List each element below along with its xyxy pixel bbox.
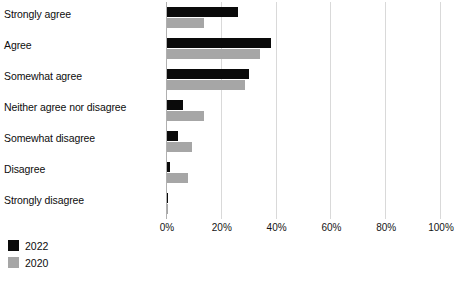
- tick-label-100: 100%: [428, 222, 454, 234]
- tick-label-80: 80%: [376, 222, 396, 234]
- bar-2020-somewhat-agree: [167, 80, 245, 90]
- bar-2020-somewhat-disagree: [167, 142, 192, 152]
- category-label-strongly-disagree: Strongly disagree: [4, 194, 154, 206]
- gridline-80: [385, 2, 386, 219]
- legend-item-2022: 2022: [8, 238, 128, 253]
- bar-2020-agree: [167, 49, 260, 59]
- category-label-disagree: Disagree: [4, 163, 154, 175]
- plot-area: [166, 2, 440, 219]
- bar-2020-strongly-disagree: [167, 204, 168, 214]
- category-label-neither-agree-nor-disagree: Neither agree nor disagree: [4, 101, 154, 113]
- legend-swatch-icon-2020: [8, 257, 19, 268]
- bar-2022-strongly-agree: [167, 7, 238, 17]
- legend-item-2020: 2020: [8, 255, 128, 270]
- bar-2020-disagree: [167, 173, 188, 183]
- gridline-100: [440, 2, 441, 219]
- tick-label-60: 60%: [321, 222, 341, 234]
- value-axis-tick-labels: 0% 20% 40% 60% 80% 100%: [166, 222, 446, 238]
- bar-2022-disagree: [167, 162, 170, 172]
- category-label-agree: Agree: [4, 39, 154, 51]
- tick-label-0: 0%: [160, 222, 174, 234]
- category-label-somewhat-disagree: Somewhat disagree: [4, 132, 154, 144]
- bar-2020-strongly-agree: [167, 18, 204, 28]
- tick-label-20: 20%: [212, 222, 232, 234]
- legend-swatch-icon-2022: [8, 240, 19, 251]
- bar-2022-somewhat-disagree: [167, 131, 178, 141]
- gridline-60: [330, 2, 331, 219]
- category-label-somewhat-agree: Somewhat agree: [4, 70, 154, 82]
- legend-label-2020: 2020: [25, 257, 48, 269]
- bar-2022-neither-agree-nor-disagree: [167, 100, 183, 110]
- bar-2022-somewhat-agree: [167, 69, 249, 79]
- legend-label-2022: 2022: [25, 240, 48, 252]
- bar-2020-neither-agree-nor-disagree: [167, 111, 204, 121]
- chart-legend: 2022 2020: [8, 238, 128, 272]
- grouped-bar-chart: Strongly agree Agree Somewhat agree Neit…: [0, 0, 472, 282]
- bar-2022-agree: [167, 38, 271, 48]
- category-axis: Strongly agree Agree Somewhat agree Neit…: [0, 0, 160, 219]
- tick-label-40: 40%: [267, 222, 287, 234]
- gridline-40: [276, 2, 277, 219]
- bar-2022-strongly-disagree: [167, 193, 168, 203]
- category-label-strongly-agree: Strongly agree: [4, 8, 154, 20]
- gridline-20: [221, 2, 222, 219]
